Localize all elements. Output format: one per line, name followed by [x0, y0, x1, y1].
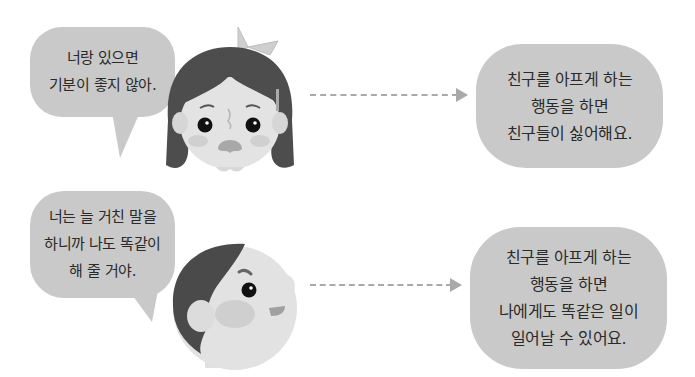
result-bubble-2: 친구를 아프게 하는 행동을 하면 나에게도 똑같은 일이 일어날 수 있어요.: [470, 227, 667, 369]
arrow-line-2: [310, 284, 452, 286]
result-line: 나에게도 똑같은 일이: [499, 298, 639, 325]
result-line: 행동을 하면: [530, 271, 607, 298]
speech-bubble-boy: 너는 늘 거친 말을 하니까 나도 똑같이 해 줄 거야.: [30, 191, 175, 298]
speech-line: 너는 늘 거친 말을: [49, 204, 156, 231]
speech-line: 해 줄 거야.: [69, 258, 136, 285]
speech-line: 하니까 나도 똑같이: [44, 231, 161, 258]
result-line: 친구를 아프게 하는: [506, 244, 631, 271]
boy-character-icon: [165, 228, 305, 377]
arrow-head-2-icon: [450, 278, 462, 292]
result-line: 일어날 수 있어요.: [511, 325, 626, 352]
